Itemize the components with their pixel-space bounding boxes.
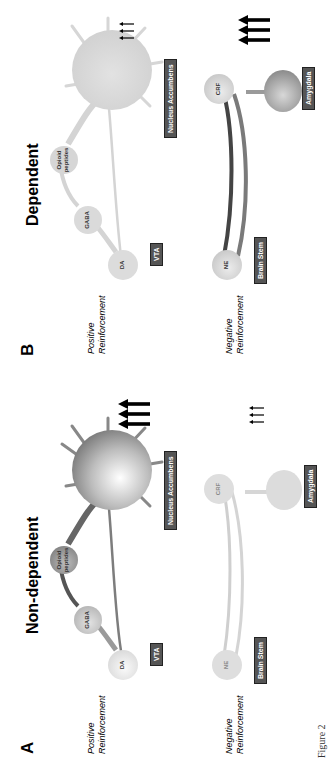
figure-caption: Figure 2 <box>316 724 327 758</box>
panel-a-negative-arrows-small <box>249 406 264 424</box>
panel-b-positive-arrows-small <box>119 22 134 40</box>
panel-b-negative-arrows-large <box>238 15 270 45</box>
figure-2-rotated: DA GABA Opioid peptides NE CRF DA GABA O… <box>0 0 334 784</box>
arrows-layer <box>0 0 334 784</box>
panel-a-positive-arrows-large <box>118 399 150 429</box>
